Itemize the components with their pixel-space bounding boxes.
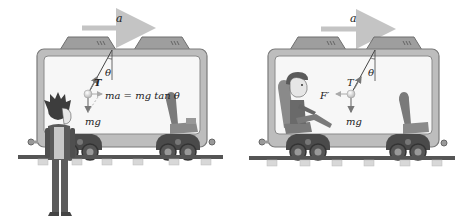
rail bbox=[249, 156, 455, 160]
angle-label: θ bbox=[368, 67, 374, 78]
weight-label: mg bbox=[85, 116, 101, 127]
roof-vent bbox=[290, 37, 346, 50]
equation-label: ma = mg tan θ bbox=[105, 90, 180, 101]
acceleration-label: a bbox=[350, 12, 357, 25]
roof-vent bbox=[366, 37, 422, 50]
roof-vent bbox=[60, 37, 116, 50]
diagram-canvas: a bbox=[0, 0, 472, 224]
angle-label: θ bbox=[105, 67, 111, 78]
acceleration-arrow: a bbox=[321, 12, 386, 29]
left-panel: a bbox=[18, 12, 223, 216]
right-panel: a bbox=[249, 12, 455, 166]
fictitious-force-label: F′ bbox=[319, 90, 330, 101]
acceleration-arrow: a bbox=[82, 12, 146, 28]
acceleration-label: a bbox=[116, 12, 123, 25]
roof-vent bbox=[134, 37, 190, 50]
weight-label: mg bbox=[346, 116, 362, 127]
